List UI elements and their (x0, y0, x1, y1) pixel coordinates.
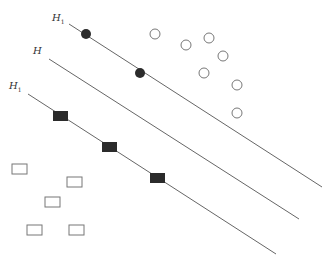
hollow-square-point (69, 225, 84, 235)
hyperplane-h (49, 59, 299, 219)
support-square-point (150, 173, 165, 183)
hollow-circle-point (181, 40, 191, 50)
label-h1: H1 (52, 12, 65, 25)
support-square-point (102, 142, 117, 152)
hollow-circle-point (204, 33, 214, 43)
hollow-circle-point (199, 68, 209, 78)
label-h: H (33, 45, 42, 56)
hollow-circle-point (150, 29, 160, 39)
support-circle-point (135, 68, 145, 78)
hollow-square-point (45, 197, 60, 207)
hollow-circle-point (232, 80, 242, 90)
hollow-circle-point (232, 108, 242, 118)
hyperplane-h1 (69, 24, 322, 187)
hollow-square-point (27, 225, 42, 235)
hollow-square-point (67, 177, 82, 187)
support-circle-point (81, 29, 91, 39)
hollow-circle-point (218, 51, 228, 61)
hollow-square-point (12, 164, 27, 174)
label-h2: H1 (9, 80, 22, 93)
svm-diagram (0, 0, 331, 261)
support-square-point (53, 111, 68, 121)
